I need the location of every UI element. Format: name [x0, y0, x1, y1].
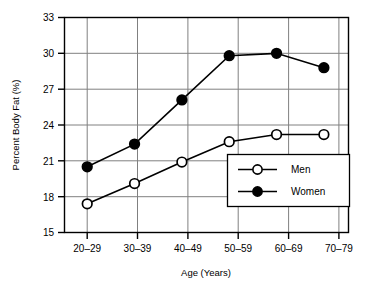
chart-canvas: 33 30 27 24 21 18 15 20–29 30–39 40–49 5… — [0, 0, 389, 288]
data-point-men-60–69 — [272, 130, 282, 140]
x-axis-title: Age (Years) — [181, 267, 231, 278]
legend-box — [228, 155, 350, 207]
y-tick-label-30: 30 — [43, 48, 55, 59]
legend-marker-filled-circle-icon — [253, 187, 262, 196]
data-point-men-50–59 — [224, 137, 234, 147]
legend: Men Women — [228, 155, 350, 207]
data-point-women-20–29 — [82, 162, 92, 172]
data-point-women-60–69 — [272, 49, 282, 59]
x-tick-label-50-59: 50–59 — [224, 243, 252, 254]
y-tick-label-24: 24 — [43, 120, 55, 131]
legend-label-men: Men — [291, 164, 310, 175]
y-tick-label-27: 27 — [43, 84, 55, 95]
legend-label-women: Women — [291, 186, 325, 197]
x-tick-label-30-39: 30–39 — [124, 243, 152, 254]
data-point-women-40–49 — [177, 95, 187, 105]
data-point-women-50–59 — [224, 51, 234, 61]
data-point-men-20–29 — [82, 199, 92, 209]
x-tick-label-20-29: 20–29 — [73, 243, 101, 254]
y-tick-label-33: 33 — [43, 12, 55, 23]
y-tick-label-18: 18 — [43, 192, 55, 203]
legend-marker-open-circle-icon — [253, 165, 262, 174]
y-axis-title: Percent Body Fat (%) — [10, 80, 21, 171]
x-tick-label-70-79: 70–79 — [325, 243, 353, 254]
data-point-women-70–79 — [319, 63, 329, 73]
data-point-women-30–39 — [130, 139, 140, 149]
x-tick-label-60-69: 60–69 — [275, 243, 303, 254]
x-tick-label-40-49: 40–49 — [174, 243, 202, 254]
data-point-men-40–49 — [177, 157, 187, 167]
data-point-men-70–79 — [319, 130, 329, 140]
data-point-men-30–39 — [130, 179, 140, 189]
y-tick-label-15: 15 — [43, 227, 55, 238]
y-tick-label-21: 21 — [43, 156, 55, 167]
body-fat-by-age-chart: 33 30 27 24 21 18 15 20–29 30–39 40–49 5… — [0, 0, 389, 288]
